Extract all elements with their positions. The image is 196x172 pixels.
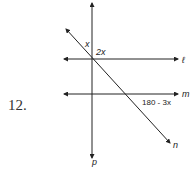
angle-label-2x: 2x bbox=[95, 47, 106, 57]
line-n bbox=[66, 29, 170, 143]
label-line-n: n bbox=[173, 140, 178, 150]
parallel-lines-diagram: ℓ m n p x 2x 180 - 3x bbox=[0, 0, 196, 172]
angle-label-180-3x: 180 - 3x bbox=[142, 98, 171, 107]
label-line-m: m bbox=[182, 89, 190, 99]
label-line-p: p bbox=[91, 157, 97, 167]
label-line-l: ℓ bbox=[181, 55, 185, 65]
angle-label-x: x bbox=[84, 39, 90, 49]
